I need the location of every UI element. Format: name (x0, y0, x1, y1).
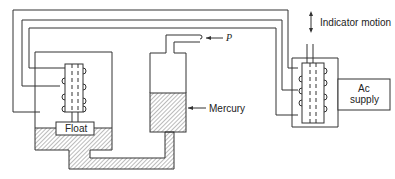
pressure-label: P (225, 32, 232, 43)
mercury-label: Mercury (209, 103, 245, 114)
float-label: Float (65, 123, 87, 134)
ac-supply-label-line2: supply (350, 94, 379, 105)
float-coil-icon (62, 64, 86, 112)
manometer-diagram: Float P Mercury (0, 0, 395, 179)
ac-supply: Ac supply (338, 79, 390, 110)
indicator-motion-arrow-icon (309, 11, 313, 33)
pressure-inlet-icon (200, 35, 202, 39)
ac-supply-label-line1: Ac (358, 83, 370, 94)
mercury-reservoir: P Mercury (150, 32, 245, 132)
indicator-motion-label: Indicator motion (320, 17, 391, 28)
